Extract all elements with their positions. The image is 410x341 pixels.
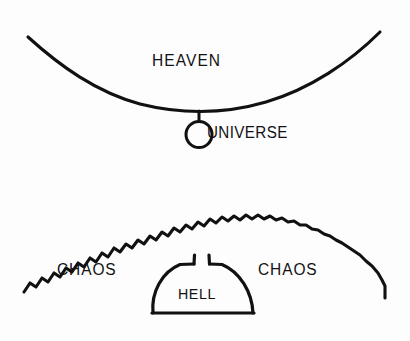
universe-label: UNIVERSE bbox=[207, 124, 288, 142]
hell-label: HELL bbox=[178, 285, 216, 302]
chaos-label-right: CHAOS bbox=[258, 261, 318, 279]
cosmology-diagram: HEAVEN UNIVERSE CHAOS CHAOS HELL bbox=[0, 0, 410, 341]
chaos-label-left: CHAOS bbox=[57, 261, 117, 279]
hell-dome-right-wall bbox=[210, 264, 254, 313]
heaven-label: HEAVEN bbox=[152, 52, 221, 70]
heaven-arc bbox=[28, 32, 380, 112]
hell-apex-stub-left bbox=[194, 255, 195, 264]
